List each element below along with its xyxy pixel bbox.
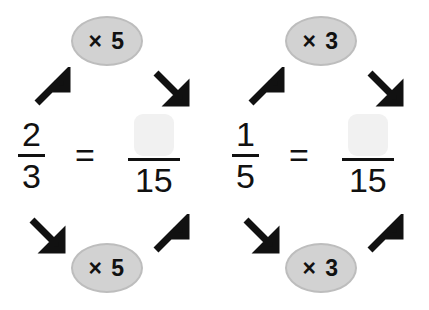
fraction-left-denominator: 5: [236, 159, 255, 194]
fraction-left-denominator: 3: [22, 159, 41, 194]
multiplier-pill-bottom: × 5: [71, 243, 143, 293]
fraction-left-2: 1 5: [232, 117, 259, 193]
multiplier-pill-top: × 3: [285, 16, 357, 66]
worksheet-canvas: × 5 2 3 = 15: [0, 0, 429, 310]
multiplier-pill-bottom-label: × 5: [88, 257, 125, 280]
multiplier-pill-top-label: × 5: [88, 30, 125, 53]
equals-sign-1: =: [75, 138, 95, 172]
arrow-top-right-down-right-icon: [366, 67, 406, 107]
fraction-right-denominator: 15: [135, 163, 173, 198]
fraction-right-1: 15: [128, 114, 180, 198]
arrow-bottom-right-up-right-icon: [152, 214, 192, 254]
answer-blank-numerator[interactable]: [134, 114, 174, 156]
equivalent-fraction-group-1: × 5 2 3 = 15: [0, 0, 215, 310]
equals-sign-2: =: [289, 138, 309, 172]
equivalent-fraction-group-2: × 3 1 5 = 15: [214, 0, 429, 310]
equation-row-2: 1 5 = 15: [214, 113, 429, 198]
arrow-top-right-down-right-icon: [152, 67, 192, 107]
arrow-top-left-up-right-icon: [247, 67, 287, 107]
arrow-bottom-left-down-right-icon: [28, 214, 68, 254]
fraction-left-numerator: 1: [236, 117, 255, 152]
multiplier-pill-bottom: × 3: [285, 243, 357, 293]
multiplier-pill-bottom-label: × 3: [302, 257, 339, 280]
answer-blank-numerator[interactable]: [348, 114, 388, 156]
arrow-bottom-left-down-right-icon: [242, 214, 282, 254]
multiplier-pill-top: × 5: [71, 16, 143, 66]
fraction-left-numerator: 2: [22, 117, 41, 152]
equation-row-1: 2 3 = 15: [0, 113, 215, 198]
multiplier-pill-top-label: × 3: [302, 30, 339, 53]
fraction-right-2: 15: [342, 114, 394, 198]
arrow-top-left-up-right-icon: [33, 67, 73, 107]
arrow-bottom-right-up-right-icon: [366, 214, 406, 254]
fraction-left-1: 2 3: [18, 117, 45, 193]
fraction-right-denominator: 15: [349, 163, 387, 198]
